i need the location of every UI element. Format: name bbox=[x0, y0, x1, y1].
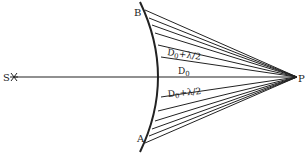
label-top-b: B bbox=[134, 7, 141, 18]
upper-rays bbox=[145, 10, 297, 77]
label-upper-distance: D0+λ/2 bbox=[166, 47, 201, 64]
fresnel-zone-diagram: S P B A D0+λ/2 D0 D0+λ/2 bbox=[0, 0, 307, 154]
source-star-icon bbox=[10, 73, 18, 81]
lower-rays bbox=[145, 77, 297, 143]
label-bottom-a: A bbox=[136, 133, 145, 144]
label-lower-distance: D0+λ/2 bbox=[167, 86, 202, 101]
label-source: S bbox=[3, 72, 10, 83]
label-observer: P bbox=[298, 73, 305, 84]
label-center-distance: D0 bbox=[178, 66, 190, 78]
